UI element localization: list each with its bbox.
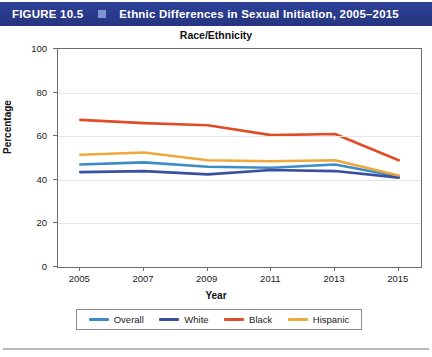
- legend-label: Overall: [114, 314, 144, 325]
- x-axis-tick-label: 2015: [378, 273, 418, 284]
- x-axis-label: Year: [0, 290, 432, 301]
- gridline: [58, 93, 421, 94]
- bottom-divider: [3, 348, 429, 350]
- figure-caption-bar: FIGURE 10.5 Ethnic Differences in Sexual…: [0, 2, 432, 26]
- figure-number-label: FIGURE 10.5: [12, 8, 83, 20]
- legend-swatch-icon: [288, 318, 308, 321]
- series-lines: [58, 49, 421, 267]
- x-axis-tick-label: 2013: [314, 273, 354, 284]
- y-axis-tick: [53, 92, 57, 93]
- y-axis-tick: [53, 266, 57, 267]
- legend-label: White: [184, 314, 208, 325]
- legend-item-white[interactable]: White: [159, 314, 208, 325]
- y-axis-tick: [53, 179, 57, 180]
- legend-item-overall[interactable]: Overall: [89, 314, 144, 325]
- y-axis-tick-label: 20: [21, 217, 47, 228]
- gridline: [58, 136, 421, 137]
- legend-item-black[interactable]: Black: [224, 314, 272, 325]
- y-axis-tick-label: 40: [21, 173, 47, 184]
- y-axis-label: Percentage: [2, 100, 13, 154]
- chart-container: Race/Ethnicity Percentage Year 020406080…: [0, 26, 432, 336]
- legend-label: Black: [249, 314, 272, 325]
- y-axis-tick: [53, 48, 57, 49]
- legend-label: Hispanic: [313, 314, 349, 325]
- gridline: [58, 180, 421, 181]
- plot-inner: [58, 49, 421, 267]
- x-axis-tick-label: 2005: [59, 273, 99, 284]
- figure-title: Ethnic Differences in Sexual Initiation,…: [119, 8, 399, 20]
- plot-area: [57, 48, 422, 268]
- legend-item-hispanic[interactable]: Hispanic: [288, 314, 349, 325]
- x-axis-tick: [79, 267, 80, 271]
- chart-title: Race/Ethnicity: [0, 29, 432, 41]
- x-axis-tick-label: 2007: [123, 273, 163, 284]
- x-axis-tick: [270, 267, 271, 271]
- gridline: [58, 223, 421, 224]
- x-axis-tick-label: 2011: [250, 273, 290, 284]
- square-bullet-icon: [98, 10, 106, 18]
- y-axis-tick: [53, 222, 57, 223]
- x-axis-tick: [207, 267, 208, 271]
- legend-swatch-icon: [224, 318, 244, 321]
- y-axis-tick-label: 80: [21, 86, 47, 97]
- chart-legend: OverallWhiteBlackHispanic: [76, 309, 362, 330]
- y-axis-tick: [53, 135, 57, 136]
- x-axis-tick: [398, 267, 399, 271]
- x-axis-tick: [143, 267, 144, 271]
- x-axis-tick-label: 2009: [187, 273, 227, 284]
- series-line-white: [80, 170, 398, 178]
- legend-swatch-icon: [159, 318, 179, 321]
- x-axis-tick: [334, 267, 335, 271]
- y-axis-tick-label: 60: [21, 130, 47, 141]
- legend-swatch-icon: [89, 318, 109, 321]
- y-axis-tick-label: 100: [21, 43, 47, 54]
- y-axis-tick-label: 0: [21, 261, 47, 272]
